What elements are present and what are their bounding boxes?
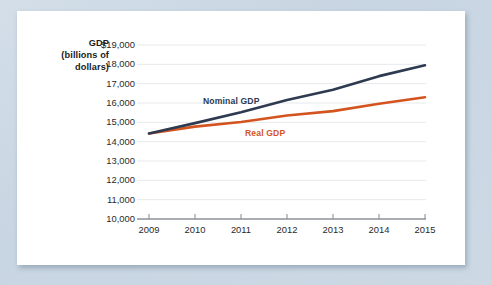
x-axis-ticks [149,214,425,219]
y-axis-tick-label: 10,000 [69,213,135,224]
y-axis-tick-label: 11,000 [69,194,135,205]
y-axis-tick-label: 18,000 [69,58,135,69]
y-axis-tick-label: 16,000 [69,97,135,108]
x-axis-tick-label: 2015 [403,224,447,235]
series-label-nominal-gdp: Nominal GDP [203,96,260,106]
x-axis-tick-label: 2010 [173,224,217,235]
chart-card: GDP (billions of dollars) $19,00018,0001… [17,11,465,265]
y-axis-tick-label: $19,000 [69,39,135,50]
y-axis-tick-label: 14,000 [69,136,135,147]
series-line-nominal-gdp [149,65,425,133]
x-axis-tick-label: 2013 [311,224,355,235]
figure-root: GDP (billions of dollars) $19,00018,0001… [0,0,491,285]
y-axis-tick-label: 17,000 [69,78,135,89]
series-label-real-gdp: Real GDP [245,128,285,138]
x-axis-tick-label: 2014 [357,224,401,235]
y-axis-tick-label: 12,000 [69,174,135,185]
x-axis-tick-label: 2011 [219,224,263,235]
y-axis-tick-label: 13,000 [69,155,135,166]
x-axis-tick-label: 2012 [265,224,309,235]
y-axis-tick-label: 15,000 [69,116,135,127]
x-axis-tick-label: 2009 [127,224,171,235]
